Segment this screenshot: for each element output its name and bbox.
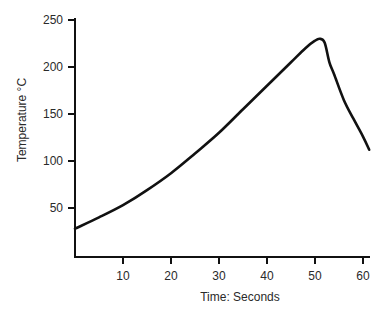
axis-frame xyxy=(75,18,370,257)
temperature-curve xyxy=(75,39,369,229)
y-axis-ticks: 50100150200250 xyxy=(43,13,75,215)
x-tick-label: 10 xyxy=(116,269,130,283)
x-tick-label: 40 xyxy=(260,269,274,283)
y-tick-label: 50 xyxy=(50,201,64,215)
y-tick-label: 100 xyxy=(43,154,63,168)
x-tick-label: 20 xyxy=(164,269,178,283)
x-axis-ticks: 102030405060 xyxy=(116,257,370,283)
x-tick-label: 60 xyxy=(356,269,370,283)
x-tick-label: 50 xyxy=(308,269,322,283)
temperature-time-chart: 50100150200250 102030405060 Temperature … xyxy=(0,0,386,316)
y-tick-label: 150 xyxy=(43,107,63,121)
x-tick-label: 30 xyxy=(212,269,226,283)
y-tick-label: 200 xyxy=(43,60,63,74)
x-axis-label: Time: Seconds xyxy=(200,290,280,304)
y-tick-label: 250 xyxy=(43,13,63,27)
y-axis-label: Temperature °C xyxy=(15,78,29,162)
